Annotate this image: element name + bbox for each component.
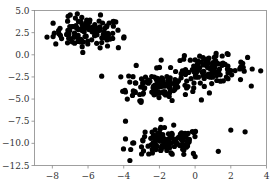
data-point — [216, 149, 221, 154]
data-point — [133, 80, 138, 85]
data-point — [157, 84, 162, 89]
data-point — [142, 86, 147, 91]
data-point — [155, 131, 160, 136]
data-point — [123, 119, 128, 124]
data-point — [84, 34, 89, 39]
data-point — [70, 24, 75, 29]
data-point — [169, 131, 174, 136]
y-tick-label: 2.5 — [15, 28, 30, 38]
data-point — [80, 44, 85, 49]
data-point — [140, 81, 145, 86]
data-point — [173, 69, 178, 74]
data-point — [173, 79, 178, 84]
data-point — [182, 53, 187, 58]
data-point — [139, 144, 144, 149]
data-point — [179, 130, 184, 135]
data-point — [99, 40, 104, 45]
data-point — [241, 65, 246, 70]
data-point — [163, 140, 168, 145]
data-point — [146, 151, 151, 156]
data-point — [158, 125, 163, 130]
data-point — [191, 80, 196, 85]
data-point — [157, 65, 162, 70]
data-point — [193, 57, 198, 62]
data-point — [238, 77, 243, 82]
data-point — [151, 145, 156, 150]
data-point — [198, 81, 203, 86]
data-point — [90, 27, 95, 32]
data-point — [208, 66, 213, 71]
y-tick-label: −2.5 — [8, 72, 30, 82]
data-point — [199, 97, 204, 102]
data-point — [102, 29, 107, 34]
y-tick-label: −10.0 — [2, 138, 30, 148]
y-tick-label: −12.5 — [2, 161, 30, 171]
x-tick-label: −2 — [153, 171, 166, 181]
data-point — [121, 35, 126, 40]
data-point — [76, 33, 81, 38]
data-point — [188, 58, 193, 63]
data-point — [76, 27, 81, 32]
data-point — [207, 90, 212, 95]
data-point — [146, 78, 151, 83]
data-point — [140, 137, 145, 142]
x-tick-label: −8 — [46, 171, 60, 181]
data-point — [105, 43, 110, 48]
data-point — [94, 41, 99, 46]
data-point — [149, 89, 154, 94]
data-point — [202, 84, 207, 89]
data-point — [111, 19, 116, 24]
data-point — [184, 78, 189, 83]
data-point — [225, 76, 230, 81]
data-point — [111, 24, 116, 29]
data-point — [185, 142, 190, 147]
data-point — [127, 158, 132, 163]
data-point — [180, 68, 185, 73]
x-tick-label: 0 — [192, 171, 198, 181]
data-point — [181, 148, 186, 153]
data-point — [94, 32, 99, 37]
data-point — [99, 74, 104, 79]
data-point — [56, 28, 61, 33]
data-point — [201, 69, 206, 74]
data-point — [213, 62, 218, 67]
data-point — [184, 85, 189, 90]
data-point — [128, 147, 133, 152]
data-point — [115, 28, 120, 33]
data-point — [171, 123, 176, 128]
data-point — [125, 97, 130, 102]
data-point — [245, 55, 250, 60]
data-point — [79, 15, 84, 20]
data-point — [68, 12, 73, 17]
data-point — [168, 88, 173, 93]
data-point — [206, 74, 211, 79]
data-point — [131, 88, 136, 93]
data-point — [183, 92, 188, 97]
data-point — [193, 75, 198, 80]
data-point — [172, 144, 177, 149]
data-point — [249, 83, 254, 88]
y-tick-label: −5.0 — [8, 94, 30, 104]
data-point — [167, 94, 172, 99]
data-point — [213, 53, 218, 58]
data-point — [168, 65, 173, 70]
data-point — [177, 58, 182, 63]
data-point — [53, 41, 58, 46]
data-point — [202, 57, 207, 62]
data-point — [148, 136, 153, 141]
data-point — [134, 63, 139, 68]
data-point — [98, 45, 103, 50]
data-point — [137, 98, 142, 103]
data-point — [116, 45, 121, 50]
data-point — [126, 73, 131, 78]
data-point — [89, 37, 94, 42]
x-tick-label: −6 — [81, 171, 95, 181]
data-point — [161, 89, 166, 94]
data-point — [73, 16, 78, 21]
data-point — [100, 20, 105, 25]
data-point — [59, 36, 64, 41]
data-point — [193, 154, 198, 159]
data-point — [139, 151, 144, 156]
data-point — [158, 117, 163, 122]
x-tick-label: 4 — [264, 171, 270, 181]
